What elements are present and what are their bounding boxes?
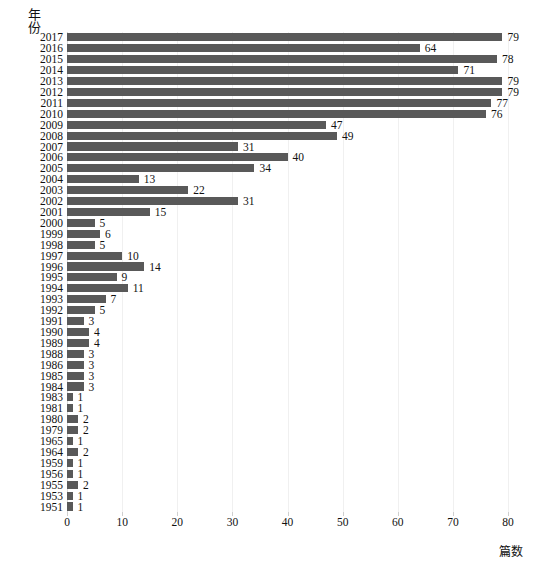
bar (67, 44, 420, 52)
bar (67, 153, 288, 161)
bar-row: 19883 (67, 348, 508, 359)
bar-row: 19843 (67, 381, 508, 392)
bar (67, 415, 78, 423)
x-tick-label: 30 (227, 516, 239, 528)
bar-value-label: 4 (94, 337, 100, 349)
bar (67, 110, 486, 118)
bar (67, 164, 254, 172)
x-axis-title: 篇数 (499, 542, 523, 559)
bar-row: 200231 (67, 196, 508, 207)
bar-row: 199411 (67, 283, 508, 294)
bar (67, 121, 326, 129)
bar (67, 252, 122, 260)
x-tick-label: 10 (116, 516, 128, 528)
bar-value-label: 64 (425, 42, 437, 54)
bar-row: 19996 (67, 228, 508, 239)
bar-row: 200640 (67, 152, 508, 163)
bar-row: 19552 (67, 479, 508, 490)
bar-value-label: 47 (331, 119, 343, 131)
bar-row: 201779 (67, 32, 508, 43)
bar (67, 132, 337, 140)
bar-value-label: 78 (502, 53, 514, 65)
bar-value-label: 49 (342, 130, 354, 142)
bar (67, 372, 84, 380)
bar (67, 262, 144, 270)
bar-row: 200849 (67, 130, 508, 141)
bar-row: 19802 (67, 414, 508, 425)
bar-value-label: 34 (259, 162, 271, 174)
x-tick-label: 0 (64, 516, 70, 528)
bar-row: 200731 (67, 141, 508, 152)
bar-row: 19959 (67, 272, 508, 283)
bar (67, 317, 84, 325)
bar (67, 404, 73, 412)
bar-row: 200115 (67, 207, 508, 218)
bar (67, 99, 491, 107)
bar-row: 19853 (67, 370, 508, 381)
y-axis-title: 年份 (18, 8, 40, 34)
bar-value-label: 40 (293, 151, 305, 163)
bar-row: 199710 (67, 250, 508, 261)
bar-row: 200947 (67, 119, 508, 130)
bar-row: 19531 (67, 490, 508, 501)
bar (67, 273, 117, 281)
bar-chart: 年份 篇数 01020304050607080 2017792016642015… (0, 0, 541, 573)
bar-row: 200534 (67, 163, 508, 174)
bar (67, 339, 89, 347)
bar-value-label: 76 (491, 108, 503, 120)
bar-row: 201076 (67, 108, 508, 119)
bar (67, 295, 106, 303)
bar-value-label: 31 (243, 195, 255, 207)
bar (67, 219, 95, 227)
bar-value-label: 9 (122, 271, 128, 283)
bar (67, 328, 89, 336)
bar-value-label: 13 (144, 173, 156, 185)
bar (67, 241, 95, 249)
bar-value-label: 11 (133, 282, 144, 294)
bar-value-label: 14 (149, 261, 161, 273)
bar (67, 502, 73, 510)
bar-row: 19831 (67, 392, 508, 403)
bar (67, 88, 502, 96)
bar (67, 393, 73, 401)
bar-row: 19985 (67, 239, 508, 250)
bar-row: 19913 (67, 316, 508, 327)
bar-row: 19792 (67, 425, 508, 436)
bar-row: 201379 (67, 76, 508, 87)
bar-value-label: 6 (105, 228, 111, 240)
bar-row: 201578 (67, 54, 508, 65)
bar (67, 208, 150, 216)
bar-value-label: 5 (100, 304, 106, 316)
bar-row: 201177 (67, 97, 508, 108)
bar (67, 33, 502, 41)
bar-value-label: 2 (83, 446, 89, 458)
bar (67, 197, 238, 205)
bar-value-label: 79 (507, 31, 519, 43)
bar (67, 426, 78, 434)
bar-value-label: 15 (155, 206, 167, 218)
y-tick-label: 1951 (40, 501, 63, 513)
bar-value-label: 2 (83, 479, 89, 491)
bar (67, 459, 73, 467)
bar-row: 19925 (67, 305, 508, 316)
bar-row: 201471 (67, 65, 508, 76)
bar-value-label: 5 (100, 239, 106, 251)
bar-value-label: 3 (89, 381, 95, 393)
bar-value-label: 1 (78, 501, 84, 513)
bar-row: 19811 (67, 403, 508, 414)
bar (67, 66, 458, 74)
bar-value-label: 10 (127, 250, 139, 262)
bar-value-label: 31 (243, 141, 255, 153)
bar (67, 284, 128, 292)
x-tick-label: 50 (337, 516, 349, 528)
x-tick-label: 40 (282, 516, 294, 528)
bar (67, 306, 95, 314)
bar (67, 382, 84, 390)
bar-row: 19591 (67, 457, 508, 468)
bar-row: 19651 (67, 436, 508, 447)
bar-row: 199614 (67, 261, 508, 272)
bar-value-label: 2 (83, 424, 89, 436)
bar-row: 19894 (67, 337, 508, 348)
plot-area: 01020304050607080 2017792016642015782014… (67, 32, 508, 512)
x-tick-label: 60 (392, 516, 404, 528)
